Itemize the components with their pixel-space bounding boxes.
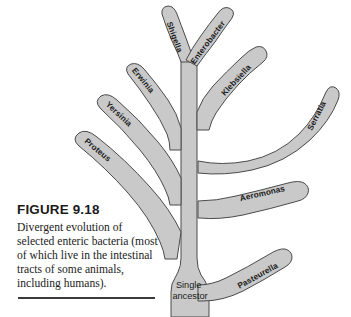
caption-divider-rule [18,297,155,299]
figure-caption-block: FIGURE 9.18 Divergent evolution of selec… [17,203,159,291]
root-label-line1: Single [176,280,202,290]
root-label-line2: ancestor [172,291,207,301]
branch-pasteurella-shape [198,249,292,301]
figure-page: Shigella Enterobacter Klebsiella Serrati… [0,0,351,317]
figure-caption-text: Divergent evolution of selected enteric … [17,221,159,292]
figure-number: FIGURE 9.18 [17,203,159,218]
root-label: Single ancestor [172,280,207,301]
